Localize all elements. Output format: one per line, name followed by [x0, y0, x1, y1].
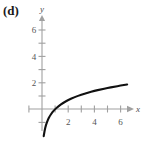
y-axis — [39, 15, 45, 131]
x-tick-label-4: 4 — [92, 117, 97, 127]
y-axis-label: y — [39, 4, 44, 14]
x-tick-label-6: 6 — [118, 117, 123, 127]
y-tick-label-4: 4 — [32, 52, 37, 62]
y-tick-label-6: 6 — [32, 25, 37, 35]
y-tick-label-2: 2 — [32, 78, 37, 88]
logarithm-graph: 2 4 6 2 4 6 x y — [0, 0, 146, 142]
x-axis-label: x — [135, 104, 140, 114]
figure-panel: (d) — [0, 0, 146, 142]
x-tick-label-2: 2 — [66, 117, 71, 127]
curve-ln-x — [44, 85, 127, 137]
